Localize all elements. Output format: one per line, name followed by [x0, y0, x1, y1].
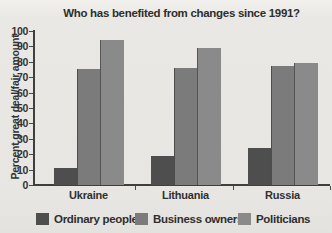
- legend: Ordinary peopleBusiness ownersPolitician…: [0, 211, 332, 231]
- bar-ordinary-people-lithuania: [151, 156, 174, 185]
- legend-label-politicians: Politicians: [256, 213, 310, 225]
- bar-politicians-lithuania: [197, 48, 221, 185]
- legend-item-business-owners: Business owners: [135, 211, 243, 227]
- y-tick-mark-90: [29, 46, 33, 47]
- category-label-ukraine: Ukraine: [44, 189, 134, 201]
- y-tick-mark-0: [29, 185, 33, 186]
- bar-business-owners-lithuania: [174, 68, 198, 185]
- bar-ordinary-people-ukraine: [54, 168, 77, 185]
- y-tick-label-60: 60: [4, 88, 28, 98]
- y-tick-label-100: 100: [4, 26, 28, 36]
- category-label-lithuania: Lithuania: [141, 189, 231, 201]
- legend-swatch-ordinary-people: [36, 213, 49, 225]
- bar-politicians-russia: [294, 63, 318, 185]
- x-tick-mark-2: [233, 186, 234, 190]
- bar-ordinary-people-russia: [248, 148, 271, 185]
- plot-area: 0102030405060708090100UkraineLithuaniaRu…: [0, 0, 332, 233]
- legend-item-ordinary-people: Ordinary people: [36, 211, 138, 227]
- bar-business-owners-russia: [271, 66, 295, 185]
- legend-label-ordinary-people: Ordinary people: [54, 213, 138, 225]
- bar-politicians-ukraine: [100, 40, 124, 185]
- y-tick-mark-50: [29, 108, 33, 109]
- x-tick-mark-3: [330, 186, 331, 190]
- y-tick-label-70: 70: [4, 72, 28, 82]
- y-tick-label-20: 20: [4, 149, 28, 159]
- y-tick-mark-70: [29, 77, 33, 78]
- y-tick-mark-60: [29, 93, 33, 94]
- legend-swatch-politicians: [238, 213, 251, 225]
- y-tick-mark-80: [29, 62, 33, 63]
- y-tick-label-40: 40: [4, 118, 28, 128]
- y-tick-label-80: 80: [4, 57, 28, 67]
- y-tick-label-10: 10: [4, 165, 28, 175]
- y-tick-mark-10: [29, 170, 33, 171]
- bar-business-owners-ukraine: [77, 69, 101, 185]
- y-tick-label-90: 90: [4, 41, 28, 51]
- y-tick-mark-30: [29, 139, 33, 140]
- bar-chart: Who has benefited from changes since 199…: [0, 0, 332, 233]
- y-axis-line: [33, 30, 35, 185]
- x-tick-mark-1: [135, 186, 136, 190]
- y-tick-mark-40: [29, 123, 33, 124]
- category-label-russia: Russia: [238, 189, 328, 201]
- y-tick-mark-20: [29, 154, 33, 155]
- y-tick-mark-100: [29, 31, 33, 32]
- legend-swatch-business-owners: [135, 213, 148, 225]
- y-tick-label-0: 0: [4, 180, 28, 190]
- legend-label-business-owners: Business owners: [153, 213, 243, 225]
- legend-item-politicians: Politicians: [238, 211, 310, 227]
- y-tick-label-50: 50: [4, 103, 28, 113]
- y-tick-label-30: 30: [4, 134, 28, 144]
